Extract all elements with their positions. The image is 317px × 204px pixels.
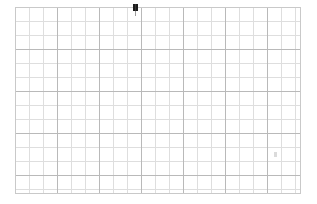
text-caret-stem-icon xyxy=(135,4,136,16)
stray-mark xyxy=(274,152,277,157)
grid-canvas[interactable] xyxy=(15,7,301,194)
app-root xyxy=(0,0,317,204)
